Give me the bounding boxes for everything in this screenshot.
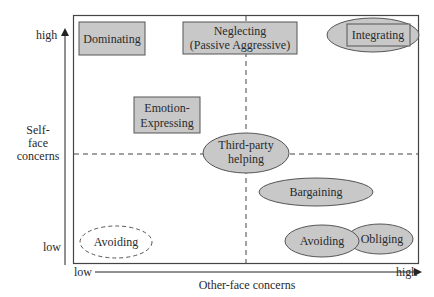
- node-bargaining-label: Bargaining: [289, 185, 342, 199]
- node-dominating: Dominating: [79, 22, 145, 55]
- node-dominating-label: Dominating: [83, 32, 140, 46]
- node-avoiding-high: Avoiding: [285, 225, 359, 257]
- node-avoiding-low-label: Avoiding: [94, 235, 138, 249]
- y-axis-title-line-2: face: [28, 136, 48, 150]
- y-axis-low-label: low: [43, 240, 61, 254]
- node-third-party-label-2: helping: [228, 152, 264, 166]
- node-avoiding-low: Avoiding: [80, 226, 152, 258]
- y-axis-title-line-1: Self-: [26, 123, 49, 137]
- node-third-party-label-1: Third-party: [218, 138, 273, 152]
- node-obliging-label: Obliging: [361, 232, 404, 246]
- conflict-style-diagram: high low Self- face concerns low high Ot…: [0, 0, 434, 297]
- x-axis-low-label: low: [74, 265, 92, 279]
- x-axis-title: Other-face concerns: [199, 278, 296, 292]
- node-neglecting: Neglecting (Passive Aggressive): [183, 22, 297, 54]
- node-emotion-expressing-label-2: Expressing: [140, 116, 193, 130]
- node-avoiding-high-label: Avoiding: [300, 234, 344, 248]
- node-integrating-label: Integrating: [352, 28, 405, 42]
- node-neglecting-label-2: (Passive Aggressive): [190, 38, 290, 52]
- node-emotion-expressing-label-1: Emotion-: [144, 101, 189, 115]
- node-integrating: Integrating: [327, 18, 419, 52]
- node-bargaining: Bargaining: [259, 178, 373, 206]
- y-axis-high-label: high: [36, 28, 57, 42]
- x-axis-high-label: high: [396, 265, 417, 279]
- node-third-party-helping: Third-party helping: [203, 133, 289, 173]
- y-axis-title-line-3: concerns: [17, 149, 60, 163]
- node-neglecting-label-1: Neglecting: [214, 24, 267, 38]
- node-emotion-expressing: Emotion- Expressing: [134, 97, 200, 133]
